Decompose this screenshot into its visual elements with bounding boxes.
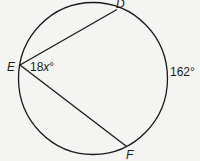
point-label-e: E: [7, 60, 16, 74]
circle: [19, 3, 168, 155]
diagram-canvas: D E F 18x° 162°: [0, 0, 200, 161]
point-label-d: D: [116, 0, 125, 11]
arc-label: 162°: [170, 65, 195, 79]
chord-ef: [20, 65, 126, 146]
angle-label: 18x°: [30, 60, 54, 74]
point-label-f: F: [126, 148, 134, 161]
chord-ed: [20, 10, 117, 66]
